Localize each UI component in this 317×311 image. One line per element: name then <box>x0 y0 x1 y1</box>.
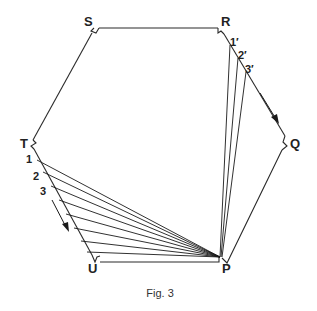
right-fan-lines <box>220 45 246 257</box>
left-fan-number-labels: 123 <box>26 153 46 197</box>
right-fan-label-3: 3′ <box>245 63 254 75</box>
right-fan-number-labels: 1′2′3′ <box>230 36 254 75</box>
figure-caption: Fig. 3 <box>146 287 174 299</box>
right-fan-label-2: 2′ <box>238 49 247 61</box>
corner-q-icon <box>282 136 287 150</box>
vertex-label-r: R <box>221 14 231 29</box>
edge-t-u <box>34 149 92 255</box>
corner-t-icon <box>31 140 36 149</box>
vertex-label-s: S <box>84 14 93 29</box>
edge-u-p <box>100 256 219 262</box>
vertex-label-q: Q <box>290 136 300 151</box>
left-fan-lines <box>37 160 220 257</box>
right-fan-label-1: 1′ <box>230 36 239 48</box>
edge-p-q <box>222 150 282 263</box>
right-arrow-icon <box>260 93 279 124</box>
edge-s-t <box>33 33 92 140</box>
vertex-label-u: U <box>88 261 97 276</box>
left-arrow-icon <box>52 200 69 232</box>
vertex-label-t: T <box>20 136 28 151</box>
left-fan-label-2: 2 <box>33 170 39 182</box>
vertex-labels: SRQPUT <box>20 14 300 276</box>
left-fan-label-1: 1 <box>26 153 32 165</box>
left-fan-label-3: 3 <box>40 185 46 197</box>
hexagon-diagram: SRQPUT 123 1′2′3′ Fig. 3 <box>0 0 317 311</box>
vertex-label-p: P <box>222 261 231 276</box>
